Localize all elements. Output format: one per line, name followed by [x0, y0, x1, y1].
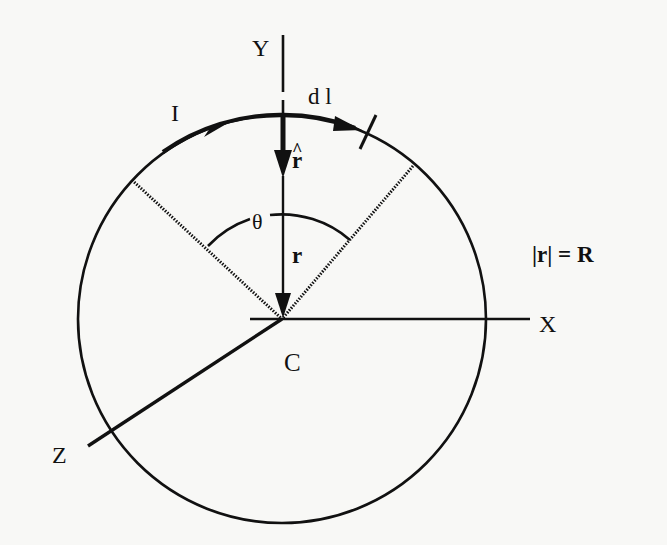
z-axis-label: Z — [52, 442, 67, 468]
dotted-radius-left — [132, 180, 282, 319]
diagram-svg: Y X Z C I d l ^ r r θ |r| = R — [0, 0, 667, 545]
z-axis-line — [88, 319, 282, 446]
x-axis-label: X — [539, 311, 556, 337]
line-element-label: d l — [308, 84, 332, 109]
current-arc-segment — [163, 115, 283, 152]
center-label: C — [284, 349, 301, 376]
radius-vector-label: r — [292, 243, 302, 268]
magnitude-relation-label: |r| = R — [532, 242, 594, 267]
diagram-canvas: Y X Z C I d l ^ r r θ |r| = R — [0, 0, 667, 545]
unit-vector-arrowhead — [274, 150, 292, 178]
current-label: I — [171, 100, 179, 126]
unit-vector-label: r — [292, 148, 302, 173]
radius-vector-arrowhead — [275, 293, 291, 318]
dl-arrowhead — [333, 116, 362, 131]
angle-label: θ — [252, 209, 263, 234]
y-axis-label: Y — [252, 35, 269, 61]
theta-arc-left — [208, 219, 250, 246]
